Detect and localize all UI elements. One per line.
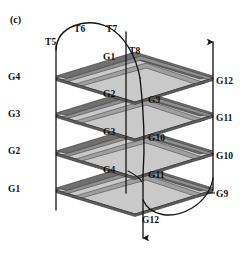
inner-label-g12: G12 bbox=[142, 216, 159, 226]
figure-panel: (c) bbox=[0, 0, 251, 262]
axis-label-t7: T7 bbox=[106, 25, 117, 35]
axis-label-t8: T8 bbox=[129, 47, 140, 57]
right-label-g12: G12 bbox=[216, 77, 233, 87]
right-label-g9: G9 bbox=[216, 190, 228, 200]
inner-label-g11: G11 bbox=[148, 171, 165, 181]
center-label-g1: G1 bbox=[103, 53, 115, 63]
axis-label-t6: T6 bbox=[74, 25, 85, 35]
inner-label-g10: G10 bbox=[148, 134, 165, 144]
left-label-g2: G2 bbox=[8, 147, 20, 157]
left-label-g3: G3 bbox=[8, 110, 20, 120]
center-label-g2: G2 bbox=[103, 90, 115, 100]
right-label-g11: G11 bbox=[216, 114, 233, 124]
center-label-g4: G4 bbox=[103, 166, 115, 176]
center-label-g3: G3 bbox=[103, 128, 115, 138]
left-label-g4: G4 bbox=[8, 73, 20, 83]
left-label-g1: G1 bbox=[8, 185, 20, 195]
right-label-g10: G10 bbox=[216, 152, 233, 162]
inner-label-g9: G9 bbox=[148, 96, 160, 106]
axis-label-t5: T5 bbox=[45, 38, 56, 48]
figure-graphic bbox=[0, 0, 251, 262]
